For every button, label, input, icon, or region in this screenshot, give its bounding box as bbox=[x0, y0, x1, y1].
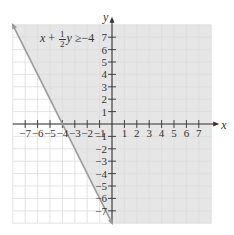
x-axis-label: x bbox=[220, 118, 227, 132]
y-tick-label: 2 bbox=[102, 93, 108, 105]
x-tick-label: −5 bbox=[44, 127, 56, 139]
x-tick-label: −7 bbox=[19, 127, 31, 139]
x-tick-label: 1 bbox=[122, 127, 128, 139]
y-tick-label: −6 bbox=[95, 192, 107, 204]
y-axis-arrow-icon bbox=[110, 17, 115, 23]
inequality-graph: −7−6−5−4−3−2−11234567−7−6−5−4−3−2−112345… bbox=[0, 0, 234, 235]
plus-sign: + bbox=[48, 31, 55, 45]
relation-symbol: ≥ bbox=[75, 31, 82, 45]
inequality-annotation: x + 1 2 y ≥−4 bbox=[40, 30, 94, 49]
y-tick-label: 3 bbox=[102, 81, 108, 93]
x-tick-label: 4 bbox=[159, 127, 165, 139]
y-tick-label: 4 bbox=[102, 68, 108, 80]
fraction-one-half: 1 2 bbox=[59, 30, 66, 49]
rhs-value: −4 bbox=[82, 31, 95, 45]
x-tick-label: −2 bbox=[81, 127, 93, 139]
x-tick-label: −3 bbox=[69, 127, 81, 139]
y-tick-label: 7 bbox=[102, 31, 108, 43]
y-tick-label: −1 bbox=[95, 130, 107, 142]
y-tick-label: −7 bbox=[95, 205, 107, 217]
x-tick-label: 5 bbox=[171, 127, 177, 139]
x-tick-label: 6 bbox=[184, 127, 190, 139]
y-tick-label: −3 bbox=[95, 155, 107, 167]
x-tick-label: 7 bbox=[196, 127, 202, 139]
x-tick-label: −6 bbox=[32, 127, 44, 139]
x-tick-label: 3 bbox=[146, 127, 152, 139]
x-tick-label: −4 bbox=[57, 127, 69, 139]
y-tick-label: −5 bbox=[95, 180, 107, 192]
var-x: x bbox=[40, 31, 45, 45]
y-tick-label: −4 bbox=[95, 168, 107, 180]
x-tick-label: 2 bbox=[134, 127, 140, 139]
y-tick-label: 5 bbox=[102, 56, 108, 68]
y-tick-label: 1 bbox=[102, 106, 108, 118]
y-axis-label: y bbox=[102, 10, 109, 24]
y-tick-label: 6 bbox=[102, 44, 108, 56]
y-tick-label: −2 bbox=[95, 143, 107, 155]
x-axis-arrow-icon bbox=[213, 122, 219, 127]
fraction-denominator: 2 bbox=[59, 40, 66, 49]
var-y: y bbox=[67, 31, 72, 45]
